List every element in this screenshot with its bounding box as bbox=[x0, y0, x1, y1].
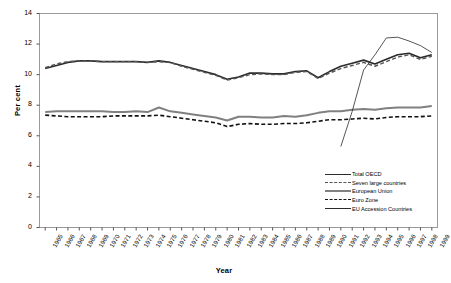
legend-label: European Union bbox=[351, 188, 392, 194]
legend-item: EU Accession Countries bbox=[325, 204, 447, 213]
y-tick-label: 4 bbox=[10, 161, 32, 168]
y-tick-label: 0 bbox=[10, 223, 32, 230]
legend-item: Seven large countries bbox=[325, 179, 447, 188]
legend-line-swatch bbox=[325, 170, 351, 178]
legend-line-swatch bbox=[325, 196, 351, 204]
y-tick-label: 10 bbox=[10, 70, 32, 77]
legend-item: Euro Zone bbox=[325, 196, 447, 205]
legend-line-swatch bbox=[325, 205, 351, 213]
legend-line-swatch bbox=[325, 179, 351, 187]
legend-label: Euro Zone bbox=[351, 197, 378, 203]
legend-label: Seven large countries bbox=[351, 180, 406, 186]
legend-item: European Union bbox=[325, 187, 447, 196]
legend-item: Total OECD bbox=[325, 170, 447, 179]
legend-line-swatch bbox=[325, 187, 351, 195]
y-tick-label: 2 bbox=[10, 192, 32, 199]
legend-label: EU Accession Countries bbox=[351, 206, 412, 212]
y-tick-label: 8 bbox=[10, 100, 32, 107]
x-axis-title: Year bbox=[0, 266, 448, 275]
y-tick-label: 12 bbox=[10, 39, 32, 46]
y-tick-label: 14 bbox=[10, 9, 32, 16]
chart-legend: Total OECDSeven large countriesEuropean … bbox=[325, 170, 447, 213]
y-tick-label: 6 bbox=[10, 131, 32, 138]
legend-label: Total OECD bbox=[351, 171, 382, 177]
